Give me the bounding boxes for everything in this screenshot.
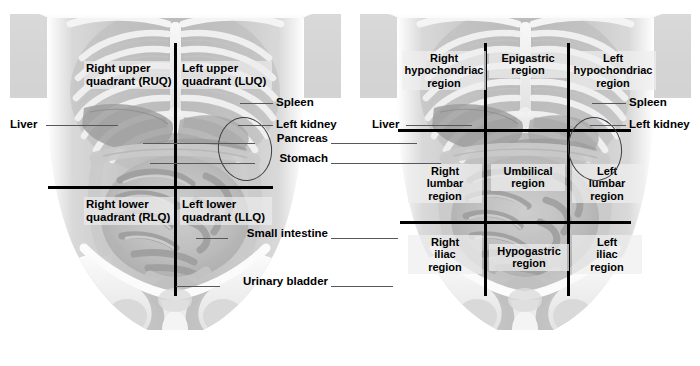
organ-label-small-intestine: Small intestine	[228, 227, 328, 239]
leader-line-small-intestine-right	[331, 238, 398, 239]
quadrant-label-luq: Left upper quadrant (LUQ)	[180, 61, 272, 89]
organ-label-pancreas: Pancreas	[258, 132, 328, 144]
leader-line-spleen-right	[592, 103, 626, 104]
leader-line-left-kidney-right	[590, 125, 626, 126]
leader-line-liver-right	[406, 125, 472, 126]
leader-line-liver-left	[46, 125, 118, 126]
organ-label-spleen-left: Spleen	[276, 96, 314, 108]
leader-line-stomach-right	[331, 163, 441, 164]
leader-line-left-kidney-left	[238, 125, 273, 126]
quadrant-label-ruq: Right upper quadrant (RUQ)	[84, 61, 174, 89]
leader-line-small-intestine-left	[196, 238, 228, 239]
region-label-hypogastric: Hypogastric region	[489, 244, 569, 271]
leader-line-stomach-left	[150, 163, 255, 164]
leader-line-urinary-bladder-left	[176, 286, 220, 287]
quadrant-horizontal-transumbilical-line	[48, 186, 273, 189]
organ-label-spleen-right: Spleen	[629, 96, 667, 108]
organ-label-left-kidney-left: Left kidney	[276, 118, 337, 130]
region-label-left-hypochondriac: Left hypochondriac region	[570, 51, 656, 90]
leader-line-pancreas-left	[143, 143, 255, 144]
region-label-umbilical: Umbilical region	[491, 164, 565, 191]
organ-label-liver-right: Liver	[372, 118, 400, 130]
quadrant-vertical-midline	[174, 43, 177, 296]
quadrant-label-rlq: Right lower quadrant (RLQ)	[84, 197, 174, 225]
organ-label-urinary-bladder: Urinary bladder	[222, 275, 328, 287]
quadrants-panel: Right upper quadrant (RUQ) Left upper qu…	[0, 0, 350, 366]
region-label-right-lumbar: Right lumbar region	[408, 164, 482, 203]
figure-canvas: Right upper quadrant (RUQ) Left upper qu…	[0, 0, 700, 366]
region-label-epigastric: Epigastric region	[489, 51, 567, 78]
quadrant-label-llq: Left lower quadrant (LLQ)	[180, 197, 272, 225]
organ-label-stomach: Stomach	[258, 152, 328, 164]
leader-line-spleen-left	[240, 103, 273, 104]
organ-label-liver-left: Liver	[10, 118, 38, 130]
region-label-right-hypochondriac: Right hypochondriac region	[402, 51, 486, 90]
region-label-left-iliac: Left iliac region	[572, 235, 642, 274]
region-horizontal-intertubercular-line	[400, 221, 631, 224]
leader-line-pancreas-right	[331, 143, 417, 144]
regions-panel: Right hypochondriac region Epigastric re…	[350, 0, 700, 366]
leader-line-urinary-bladder-right	[331, 286, 393, 287]
organ-label-left-kidney-right: Left kidney	[629, 118, 690, 130]
region-label-right-iliac: Right iliac region	[408, 235, 482, 274]
